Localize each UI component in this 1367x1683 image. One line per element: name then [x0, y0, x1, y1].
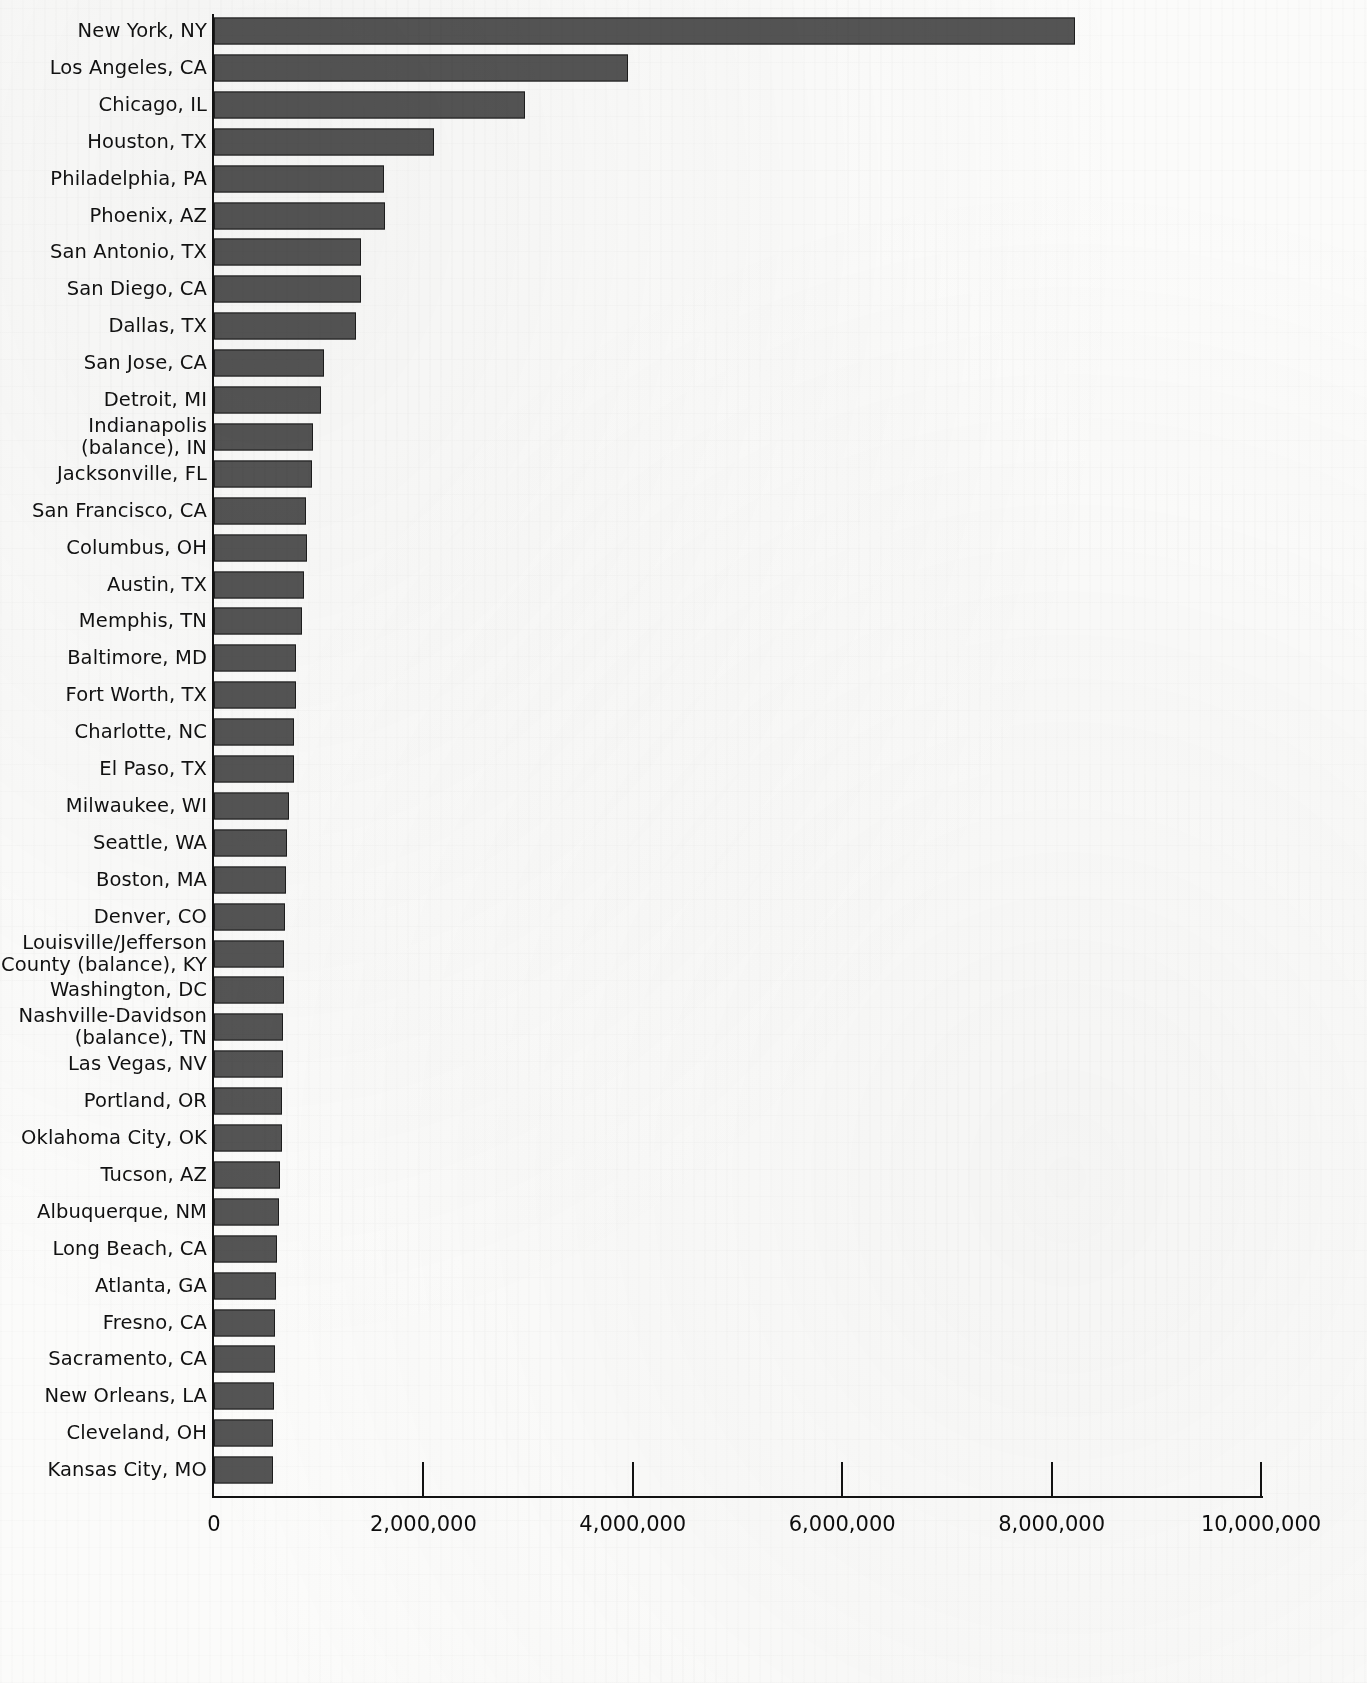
x-axis-tick-label: 8,000,000	[998, 1512, 1105, 1536]
bar-row: New York, NY	[0, 14, 1367, 48]
x-axis-tick-label: 6,000,000	[789, 1512, 896, 1536]
bar	[214, 1457, 273, 1484]
category-label: Fort Worth, TX	[0, 684, 207, 706]
bar-row: Houston, TX	[0, 125, 1367, 159]
category-label: San Jose, CA	[0, 352, 207, 374]
bar	[214, 460, 312, 487]
category-label: Albuquerque, NM	[0, 1201, 207, 1223]
bar	[214, 350, 324, 377]
bar-row: Indianapolis (balance), IN	[0, 420, 1367, 454]
bar	[214, 682, 296, 709]
bar	[214, 534, 307, 561]
bar	[214, 977, 284, 1004]
category-label: San Francisco, CA	[0, 500, 207, 522]
plot-area: New York, NYLos Angeles, CAChicago, ILHo…	[0, 0, 1367, 1683]
bar-row: Jacksonville, FL	[0, 457, 1367, 491]
bar	[214, 608, 302, 635]
bar-row: Sacramento, CA	[0, 1342, 1367, 1376]
category-label: Fresno, CA	[0, 1312, 207, 1334]
category-label: Houston, TX	[0, 131, 207, 153]
category-label: Jacksonville, FL	[0, 463, 207, 485]
bar-row: Fresno, CA	[0, 1306, 1367, 1340]
category-label: San Antonio, TX	[0, 241, 207, 263]
category-label: Phoenix, AZ	[0, 205, 207, 227]
bar-row: Chicago, IL	[0, 88, 1367, 122]
bar-row: El Paso, TX	[0, 752, 1367, 786]
category-label: Louisville/Jefferson County (balance), K…	[0, 932, 207, 976]
bar	[214, 940, 284, 967]
bar-row: Fort Worth, TX	[0, 678, 1367, 712]
bar-chart: New York, NYLos Angeles, CAChicago, ILHo…	[0, 0, 1367, 1683]
bar-row: Memphis, TN	[0, 604, 1367, 638]
category-label: Portland, OR	[0, 1090, 207, 1112]
bar-row: Columbus, OH	[0, 531, 1367, 565]
category-label: Memphis, TN	[0, 610, 207, 632]
bar	[214, 1383, 274, 1410]
bar	[214, 54, 628, 81]
bar-row: Dallas, TX	[0, 309, 1367, 343]
bar	[214, 1420, 273, 1447]
category-label: Austin, TX	[0, 574, 207, 596]
category-label: Dallas, TX	[0, 315, 207, 337]
category-label: Los Angeles, CA	[0, 57, 207, 79]
bar	[214, 645, 296, 672]
bar-row: Nashville-Davidson (balance), TN	[0, 1010, 1367, 1044]
bar	[214, 1309, 275, 1336]
bar	[214, 1235, 277, 1262]
bar	[214, 1125, 282, 1152]
bar-row: Tucson, AZ	[0, 1158, 1367, 1192]
bar	[214, 1051, 283, 1078]
bar-row: Baltimore, MD	[0, 641, 1367, 675]
category-label: El Paso, TX	[0, 758, 207, 780]
bar-row: Portland, OR	[0, 1084, 1367, 1118]
bar	[214, 829, 287, 856]
category-label: Nashville-Davidson (balance), TN	[0, 1005, 207, 1049]
category-label: Atlanta, GA	[0, 1275, 207, 1297]
category-label: Baltimore, MD	[0, 647, 207, 669]
x-axis-tick	[1260, 1462, 1262, 1496]
bar-row: Detroit, MI	[0, 383, 1367, 417]
x-axis-tick	[1051, 1462, 1053, 1496]
category-label: Boston, MA	[0, 869, 207, 891]
bar	[214, 1346, 275, 1373]
x-axis-tick	[632, 1462, 634, 1496]
bar-row: Kansas City, MO	[0, 1453, 1367, 1487]
category-label: Columbus, OH	[0, 537, 207, 559]
y-axis-line	[212, 14, 214, 1496]
bar	[214, 313, 356, 340]
bar-row: Charlotte, NC	[0, 715, 1367, 749]
bar-row: Cleveland, OH	[0, 1416, 1367, 1450]
bar	[214, 239, 361, 266]
bar-row: Albuquerque, NM	[0, 1195, 1367, 1229]
bar	[214, 276, 361, 303]
bar-row: Philadelphia, PA	[0, 162, 1367, 196]
bar	[214, 571, 304, 598]
bar-row: Denver, CO	[0, 900, 1367, 934]
bar-row: Milwaukee, WI	[0, 789, 1367, 823]
bar-row: Las Vegas, NV	[0, 1047, 1367, 1081]
category-label: Chicago, IL	[0, 94, 207, 116]
category-label: Cleveland, OH	[0, 1422, 207, 1444]
bar	[214, 18, 1075, 45]
x-axis-tick	[841, 1462, 843, 1496]
x-axis-line	[212, 1496, 1263, 1498]
bar-row: Phoenix, AZ	[0, 199, 1367, 233]
x-axis-tick-label: 2,000,000	[370, 1512, 477, 1536]
bar	[214, 719, 294, 746]
bar-row: Seattle, WA	[0, 826, 1367, 860]
bar	[214, 1198, 279, 1225]
bar	[214, 91, 525, 118]
x-axis-tick-label: 10,000,000	[1201, 1512, 1321, 1536]
bar	[214, 202, 385, 229]
bar	[214, 792, 289, 819]
bar-row: Oklahoma City, OK	[0, 1121, 1367, 1155]
category-label: Tucson, AZ	[0, 1164, 207, 1186]
x-axis-tick-label: 0	[207, 1512, 220, 1536]
bar-row: Boston, MA	[0, 863, 1367, 897]
bar-row: New Orleans, LA	[0, 1379, 1367, 1413]
bar	[214, 1161, 280, 1188]
category-label: New York, NY	[0, 20, 207, 42]
x-axis-tick-label: 4,000,000	[579, 1512, 686, 1536]
category-label: Long Beach, CA	[0, 1238, 207, 1260]
bar	[214, 756, 294, 783]
